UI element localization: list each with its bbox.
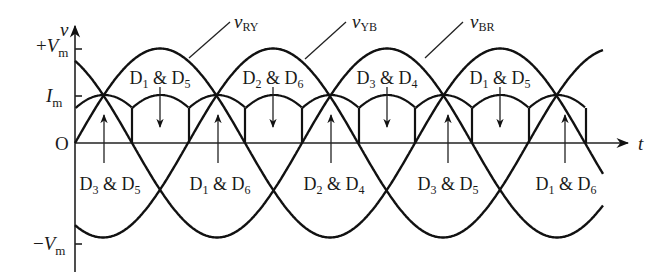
tick-label-vm-neg: −Vm — [33, 233, 65, 258]
waveform-labels: vRY vYB vBR — [189, 11, 494, 59]
conduction-label: D3 & D5 — [79, 174, 140, 197]
leader-vyb — [305, 22, 346, 59]
tick-label-origin: O — [55, 133, 69, 154]
conduction-label: D1 & D6 — [189, 174, 250, 197]
annotation-top-0: D1 & D5 — [129, 68, 190, 127]
conduction-label: D3 & D5 — [417, 174, 478, 197]
leader-vry — [189, 22, 230, 58]
label-vry: vRY — [234, 11, 259, 34]
axis-labels: v t +Vm Im O −Vm — [33, 19, 644, 258]
conduction-label: D1 & D6 — [535, 174, 596, 197]
annotation-bottom-1: D1 & D6 — [189, 115, 250, 197]
conduction-label: D2 & D4 — [303, 174, 364, 197]
annotation-top-1: D2 & D6 — [242, 68, 303, 127]
t-axis-label: t — [638, 133, 644, 154]
leader-vbr — [425, 22, 463, 58]
label-vbr: vBR — [470, 11, 494, 34]
annotation-bottom-2: D2 & D4 — [303, 115, 364, 197]
annotation-top-3: D1 & D5 — [469, 68, 530, 127]
annotation-bottom-3: D3 & D5 — [417, 115, 478, 197]
annotation-bottom-4: D1 & D6 — [535, 115, 596, 197]
tick-label-im: Im — [45, 85, 62, 110]
label-vyb: vYB — [352, 11, 377, 34]
annotation-top-2: D3 & D4 — [356, 68, 417, 127]
y-axis-label: v — [60, 19, 69, 40]
rectifier-waveform-diagram: v t +Vm Im O −Vm vRY vYB vBR — [0, 0, 664, 279]
